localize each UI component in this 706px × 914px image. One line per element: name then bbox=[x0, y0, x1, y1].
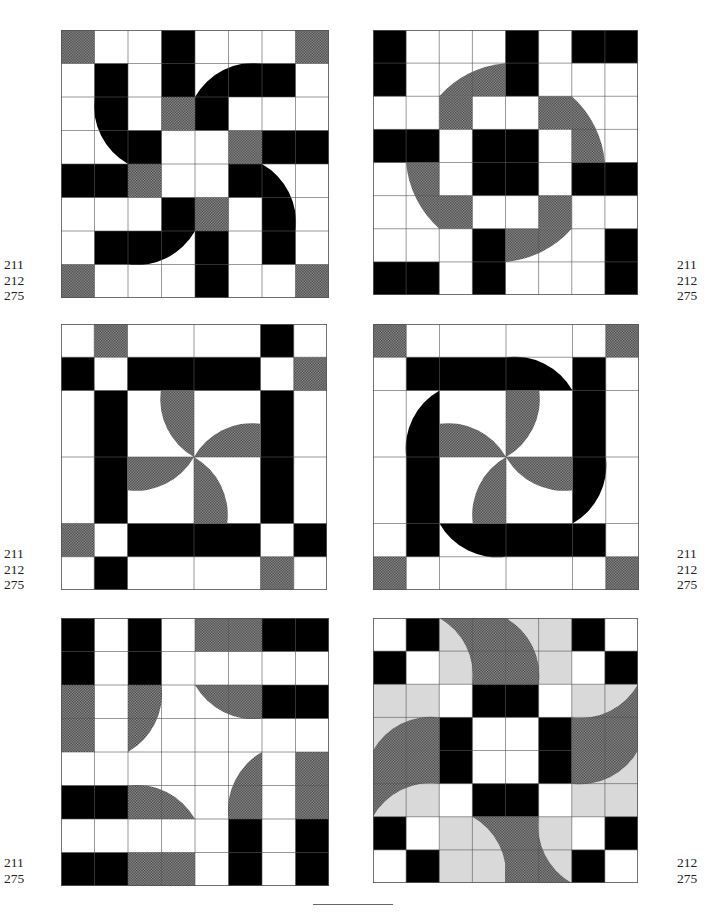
hatched-patch bbox=[373, 324, 406, 357]
black-patch bbox=[605, 651, 638, 684]
reference-number: 275 bbox=[677, 871, 697, 887]
block-3 bbox=[61, 324, 327, 590]
black-patch bbox=[61, 357, 94, 390]
block-6 bbox=[373, 618, 638, 883]
hatched-patch bbox=[539, 96, 572, 129]
reference-number: 211 bbox=[4, 546, 24, 562]
reference-numbers: 211212275 bbox=[677, 546, 697, 593]
hatched-patch bbox=[294, 357, 327, 390]
hatched-patch bbox=[94, 324, 127, 357]
block-5 bbox=[61, 618, 329, 886]
hatched-patch bbox=[606, 557, 639, 590]
hatched-patch bbox=[162, 97, 196, 131]
reference-number: 212 bbox=[677, 855, 697, 871]
reference-numbers: 211275 bbox=[4, 855, 24, 886]
reference-number: 212 bbox=[677, 562, 697, 578]
black-patch bbox=[373, 817, 406, 850]
black-patch bbox=[261, 324, 294, 357]
reference-number: 211 bbox=[4, 855, 24, 871]
reference-numbers: 211212275 bbox=[4, 257, 24, 304]
black-patch bbox=[294, 524, 327, 557]
black-patch bbox=[572, 618, 605, 651]
reference-number: 211 bbox=[677, 546, 697, 562]
hatched-patch bbox=[61, 265, 95, 299]
hatched-patch bbox=[296, 265, 330, 299]
hatched-patch bbox=[373, 557, 406, 590]
hatched-patch bbox=[261, 557, 294, 590]
block-1 bbox=[61, 30, 329, 298]
hatched-patch bbox=[439, 196, 472, 229]
hatched-patch bbox=[61, 30, 95, 64]
hatched-patch bbox=[229, 131, 263, 165]
hatched-patch bbox=[61, 524, 94, 557]
page-header-mark bbox=[250, 0, 450, 10]
black-patch bbox=[605, 817, 638, 850]
reference-number: 211 bbox=[677, 257, 697, 273]
reference-number: 212 bbox=[4, 273, 24, 289]
black-patch bbox=[373, 651, 406, 684]
reference-number: 212 bbox=[4, 562, 24, 578]
hatched-patch bbox=[439, 96, 472, 129]
reference-number: 275 bbox=[677, 577, 697, 593]
reference-number: 211 bbox=[4, 257, 24, 273]
footer-rule bbox=[313, 904, 393, 905]
reference-number: 275 bbox=[677, 288, 697, 304]
hatched-patch bbox=[195, 198, 229, 232]
reference-number: 275 bbox=[4, 871, 24, 887]
black-patch bbox=[572, 850, 605, 883]
reference-number: 212 bbox=[677, 273, 697, 289]
block-2 bbox=[373, 30, 638, 295]
reference-numbers: 211212275 bbox=[4, 546, 24, 593]
black-patch bbox=[406, 850, 439, 883]
hatched-patch bbox=[606, 324, 639, 357]
hatched-patch bbox=[128, 164, 162, 198]
reference-numbers: 212275 bbox=[677, 855, 697, 886]
hatched-patch bbox=[296, 30, 330, 64]
reference-numbers: 211212275 bbox=[677, 257, 697, 304]
black-patch bbox=[406, 618, 439, 651]
black-patch bbox=[94, 557, 127, 590]
reference-number: 275 bbox=[4, 577, 24, 593]
block-4 bbox=[373, 324, 639, 590]
reference-number: 275 bbox=[4, 288, 24, 304]
hatched-patch bbox=[539, 196, 572, 229]
